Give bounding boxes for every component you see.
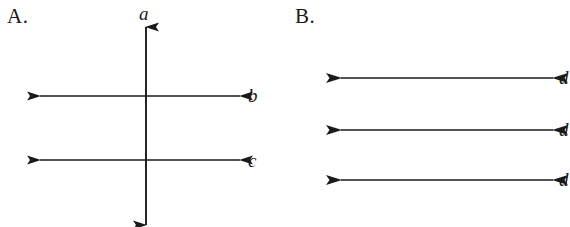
panel-a: A. a b c — [0, 0, 285, 227]
line-label-b: b — [248, 86, 258, 105]
line-label-d3-clip: d — [559, 170, 570, 194]
line-label-d2-clip: d — [559, 120, 570, 144]
panel-b-arrows — [285, 0, 570, 227]
line-label-d3: d — [559, 170, 569, 189]
line-label-a: a — [139, 4, 149, 23]
line-label-d2: d — [559, 120, 569, 139]
line-label-d1-clip: d — [559, 68, 570, 92]
line-label-c: c — [248, 151, 256, 170]
line-label-d1: d — [559, 68, 569, 87]
panel-a-arrows — [0, 0, 285, 227]
figure-lines-diagram: A. a b c B. — [0, 0, 570, 227]
panel-b: B. d d d — [285, 0, 570, 227]
